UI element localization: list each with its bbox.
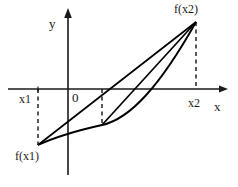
chord-x1-x2 <box>38 22 196 145</box>
math-figure: y x 0 x1 x2 f(x1) f(x2) <box>0 0 238 187</box>
x2-label: x2 <box>188 97 200 109</box>
x1-label: x1 <box>19 93 31 105</box>
y-axis <box>64 8 72 175</box>
x-axis-arrow <box>219 86 228 93</box>
origin-label: 0 <box>72 91 79 104</box>
y-axis-arrow <box>64 8 72 18</box>
x-axis <box>8 86 228 93</box>
f-x2-label: f(x2) <box>174 3 198 15</box>
y-axis-label: y <box>49 17 56 30</box>
chord-mid-x2 <box>102 22 196 125</box>
x-axis-label: x <box>214 100 221 113</box>
f-x1-label: f(x1) <box>15 150 39 162</box>
